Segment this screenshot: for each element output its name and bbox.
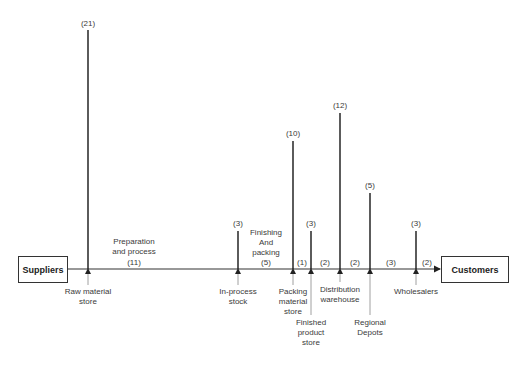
flow-diagram-canvas <box>0 0 511 365</box>
suppliers-box: Suppliers <box>18 256 68 283</box>
label-wholesalers: Wholesalers <box>388 287 444 297</box>
segment-value-preparation: (11) <box>127 258 141 268</box>
segment-label-preparation: Preparation and process <box>106 237 162 257</box>
customers-box: Customers <box>441 256 509 283</box>
segment-value-packing-to-finished: (1) <box>297 258 307 268</box>
segment-value-distribution-to-depots: (2) <box>350 258 360 268</box>
value-wholesalers: (3) <box>411 219 421 229</box>
segment-label-finishing: Finishing And packing <box>246 228 286 258</box>
value-regional-depots: (5) <box>365 181 375 191</box>
segment-value-wholesalers-to-customers: (2) <box>422 258 432 268</box>
value-raw-material-store: (21) <box>81 19 95 29</box>
label-raw-material-store: Raw material store <box>58 287 118 307</box>
label-regional-depots: Regional Depots <box>350 318 390 338</box>
value-packing-material-store: (10) <box>286 129 300 139</box>
value-in-process-stock: (3) <box>233 219 243 229</box>
segment-value-finishing: (5) <box>261 258 271 268</box>
label-distribution-warehouse: Distribution warehouse <box>312 285 368 305</box>
segment-value-finished-to-distribution: (2) <box>320 258 330 268</box>
label-finished-product-store: Finished product store <box>291 318 331 348</box>
value-distribution-warehouse: (12) <box>333 101 347 111</box>
label-in-process-stock: In-process stock <box>213 287 263 307</box>
label-packing-material-store: Packing material store <box>273 287 313 317</box>
segment-value-depots-to-wholesalers: (3) <box>386 258 396 268</box>
value-finished-product-store: (3) <box>306 219 316 229</box>
